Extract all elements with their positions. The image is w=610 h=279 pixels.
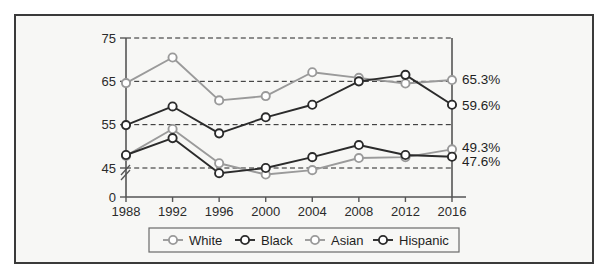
data-point-white-1988 [122,79,130,87]
y-tick-label-65: 65 [102,74,116,89]
y-tick-label-55: 55 [102,117,116,132]
end-label-white: 65.3% [462,72,500,87]
data-point-white-2004 [308,68,316,76]
x-tick-label-2016: 2016 [438,204,467,219]
legend-label-hispanic: Hispanic [399,233,449,248]
end-value-labels: 65.3%59.6%49.3%47.6% [462,72,500,170]
end-label-asian: 49.3% [462,140,500,155]
data-point-hispanic-1992 [168,134,176,142]
x-tick-label-2004: 2004 [298,204,327,219]
x-tick-label-1988: 1988 [112,204,141,219]
y-tick-label-45: 45 [102,161,116,176]
data-point-hispanic-2016 [448,153,456,161]
data-point-white-2012 [401,79,409,87]
data-point-hispanic-1988 [122,151,130,159]
data-point-white-2016 [448,76,456,84]
line-chart: 045556575 198819921996200020042008201220… [16,16,592,262]
chart-legend: WhiteBlackAsianHispanic [149,228,459,252]
data-point-black-2012 [401,71,409,79]
data-point-black-1992 [168,102,176,110]
data-point-hispanic-2012 [401,151,409,159]
x-tick-label-1992: 1992 [158,204,187,219]
data-point-asian-2008 [355,154,363,162]
x-tick-label-2012: 2012 [391,204,420,219]
data-point-hispanic-2000 [262,164,270,172]
data-series-group [122,53,456,178]
legend-label-white: White [189,233,222,248]
end-label-black: 59.6% [462,98,500,113]
y-tick-label-0: 0 [109,190,116,205]
data-point-black-1988 [122,121,130,129]
data-point-hispanic-2008 [355,141,363,149]
data-point-asian-2004 [308,166,316,174]
data-point-black-2008 [355,77,363,85]
end-label-hispanic: 47.6% [462,154,500,169]
data-point-white-1992 [168,53,176,61]
data-point-hispanic-1996 [215,169,223,177]
data-point-white-2000 [262,92,270,100]
legend-label-asian: Asian [331,233,364,248]
data-point-black-1996 [215,129,223,137]
legend-marker-white [169,236,177,244]
legend-marker-asian [311,236,319,244]
data-point-asian-1996 [215,159,223,167]
x-axis-ticks: 19881992199620002004200820122016 [112,197,467,219]
x-tick-label-1996: 1996 [205,204,234,219]
data-point-asian-1992 [168,125,176,133]
legend-marker-hispanic [379,236,387,244]
y-tick-label-75: 75 [102,31,116,46]
x-tick-label-2000: 2000 [251,204,280,219]
legend-marker-black [241,236,249,244]
x-tick-label-2008: 2008 [344,204,373,219]
data-point-black-2016 [448,101,456,109]
data-point-white-1996 [215,96,223,104]
data-point-hispanic-2004 [308,153,316,161]
data-point-black-2004 [308,101,316,109]
legend-label-black: Black [261,233,293,248]
data-point-black-2000 [262,113,270,121]
chart-figure: 045556575 198819921996200020042008201220… [14,14,594,264]
